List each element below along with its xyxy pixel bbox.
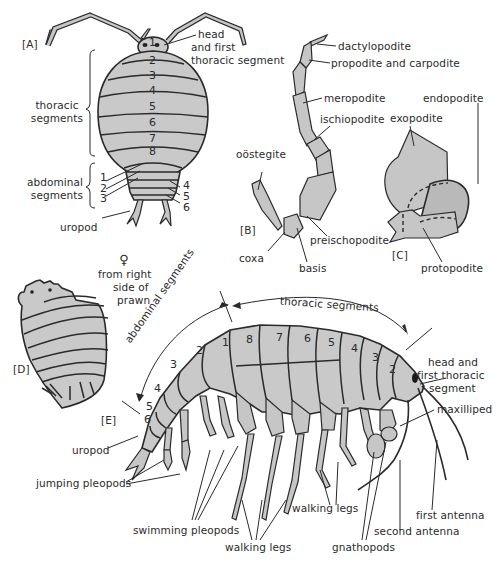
label-uropod-e: uropod: [72, 444, 110, 456]
label-swimming-pleopods: swimming pleopods: [133, 524, 239, 536]
panel-c-pleopod: [385, 103, 478, 262]
label-maxilliped: maxilliped: [437, 403, 492, 415]
label-endopodite: endopodite: [423, 92, 483, 104]
panel-d-tag: [D]: [13, 363, 30, 375]
e-thoracic-5: 5: [328, 337, 335, 349]
e-thoracic-3: 3: [372, 352, 379, 364]
label-coxa: coxa: [239, 252, 264, 264]
e-abdominal-2: 2: [196, 345, 203, 357]
caption-side-of: side of: [113, 281, 149, 293]
label-segments: segments: [30, 112, 84, 124]
label-meropodite: meropodite: [324, 92, 385, 104]
label-head: head: [198, 28, 225, 40]
thoracic-number-2: 2: [149, 55, 156, 67]
thoracic-number-6: 6: [149, 117, 156, 129]
thoracic-number-3: 3: [149, 70, 156, 82]
e-thoracic-6: 6: [304, 333, 311, 345]
thoracic-number-7: 7: [149, 133, 156, 145]
label-protopodite: protopodite: [421, 262, 483, 274]
label-thoracic-segment: thoracic segment: [191, 54, 284, 66]
e-thoracic-7: 7: [276, 332, 283, 344]
panel-a-tag: [A]: [22, 38, 38, 50]
caption-from-right: from right: [98, 268, 151, 280]
label-head-and: head and: [428, 356, 478, 368]
panel-e-amphipod-lateral: [108, 291, 468, 540]
label-dactylopodite: dactylopodite: [338, 40, 411, 52]
label-second-antenna: second antenna: [374, 525, 460, 537]
female-symbol: ♀: [112, 254, 136, 266]
panel-c-tag: [C]: [392, 249, 408, 261]
e-abdominal-3: 3: [170, 359, 177, 371]
label-segment: segment: [429, 382, 476, 394]
label-preischopodite: preischopodite: [310, 234, 389, 246]
label-gnathopods: gnathopods: [332, 541, 395, 553]
label-and-first: and first: [191, 41, 236, 53]
abdominal-number-3: 3: [100, 193, 107, 205]
e-thoracic-2: 2: [389, 364, 396, 376]
label-thoracic: thoracic: [32, 99, 82, 111]
label-abdominal-segments: segments: [30, 189, 84, 201]
label-exopodite: exopodite: [390, 112, 443, 124]
label-first-thoracic: first thoracic: [417, 369, 485, 381]
head-number: 1: [149, 36, 156, 49]
e-abdominal-5: 5: [146, 401, 153, 413]
panel-e-tag: [E]: [101, 414, 116, 426]
e-thoracic-8: 8: [246, 334, 253, 346]
thoracic-number-8: 8: [149, 146, 156, 158]
label-walking-legs-upper: walking legs: [292, 502, 358, 514]
panel-d-isopod-lateral: [18, 280, 108, 408]
label-basis: basis: [299, 262, 326, 274]
label-uropod-a: uropod: [60, 221, 98, 233]
label-propodite-carpodite: propodite and carpodite: [331, 57, 460, 69]
label-walking-legs-lower: walking legs: [225, 541, 291, 553]
thoracic-number-5: 5: [149, 101, 156, 113]
e-abdominal-1: 1: [222, 337, 229, 349]
label-jumping-pleopods: jumping pleopods: [36, 477, 131, 489]
e-abdominal-4: 4: [154, 383, 161, 395]
thoracic-number-4: 4: [149, 85, 156, 97]
label-abdominal: abdominal: [26, 176, 84, 188]
panel-b-tag: [B]: [240, 224, 256, 236]
label-ischiopodite: ischiopodite: [320, 113, 385, 125]
abdominal-number-6: 6: [183, 202, 190, 214]
e-thoracic-4: 4: [351, 343, 358, 355]
label-oostegite: oöstegite: [236, 148, 286, 160]
label-first-antenna: first antenna: [416, 509, 485, 521]
e-abdominal-6: 6: [144, 414, 151, 426]
